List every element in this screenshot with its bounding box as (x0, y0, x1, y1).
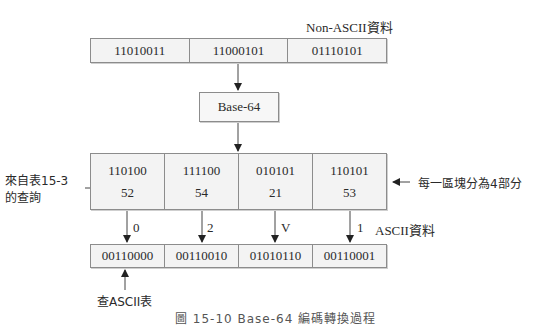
sextet-cell: 111100 54 (165, 154, 239, 209)
right-note: 每一區塊分為4部分 (418, 174, 522, 191)
char-label: V (281, 220, 290, 236)
non-ascii-label: Non-ASCII資料 (306, 17, 393, 36)
sextet-value: 21 (269, 185, 282, 201)
sextet-bits: 010101 (256, 163, 295, 179)
char-label: 1 (357, 220, 364, 236)
base64-encoder-box: Base-64 (199, 92, 279, 122)
ascii-label: ASCII資料 (375, 220, 435, 239)
left-note-line1: 來自表15-3 (5, 171, 68, 188)
output-byte: 01010110 (239, 245, 313, 267)
char-label: 2 (207, 220, 214, 236)
sextet-cell: 110101 53 (313, 154, 386, 209)
output-bytes-block: 00110000 00110010 01010110 00110001 (90, 244, 387, 268)
input-byte: 11010011 (91, 39, 190, 62)
sextet-bits: 111100 (183, 163, 221, 179)
left-note-line2: 的查詢 (5, 188, 41, 205)
sextet-bits: 110101 (330, 163, 369, 179)
input-byte: 01110101 (288, 39, 386, 62)
sextet-value: 54 (195, 185, 208, 201)
sextet-cell: 010101 21 (239, 154, 313, 209)
sextet-value: 52 (121, 185, 134, 201)
sextet-bits: 110100 (108, 163, 147, 179)
figure-caption: 圖 15-10 Base-64 編碼轉換過程 (175, 309, 376, 326)
output-byte: 00110010 (165, 245, 239, 267)
input-bytes-block: 11010011 11000101 01110101 (90, 38, 387, 63)
char-label: 0 (133, 220, 140, 236)
output-byte: 00110001 (313, 245, 386, 267)
input-byte: 11000101 (190, 39, 289, 62)
bottom-note: 查ASCII表 (97, 292, 152, 309)
output-byte: 00110000 (91, 245, 165, 267)
sextet-cell: 110100 52 (91, 154, 165, 209)
sextet-value: 53 (343, 185, 356, 201)
sextets-block: 110100 52 111100 54 010101 21 110101 53 (90, 153, 387, 210)
